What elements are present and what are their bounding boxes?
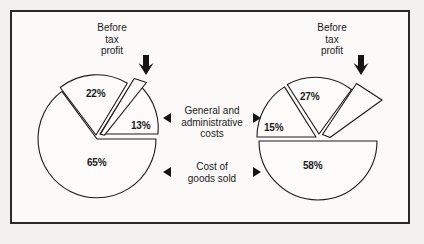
callout-right-line3: profit <box>303 45 361 57</box>
admin-arrow-left-icon <box>163 113 171 123</box>
admin-line3: costs <box>176 128 248 140</box>
figure-canvas: 22% 13% 65% 27% 15% 58% Before tax profi… <box>0 0 424 244</box>
center-label-admin-costs: General and administrative costs <box>176 105 248 140</box>
admin-arrow-right-icon <box>253 113 261 123</box>
admin-line2: administrative <box>176 117 248 129</box>
callout-arrow-right-icon <box>354 55 369 75</box>
callout-arrow-left-icon <box>139 55 154 75</box>
cogs-line2: goods sold <box>180 173 244 185</box>
callout-right-line2: tax <box>303 34 361 46</box>
center-label-cost-of-goods-sold: Cost of goods sold <box>180 161 244 184</box>
cogs-arrow-left-icon <box>163 167 171 177</box>
callout-before-tax-profit-right: Before tax profit <box>303 22 361 57</box>
cogs-arrow-right-icon <box>253 167 261 177</box>
cogs-line1: Cost of <box>180 161 244 173</box>
admin-line1: General and <box>176 105 248 117</box>
callout-right-line1: Before <box>303 22 361 34</box>
